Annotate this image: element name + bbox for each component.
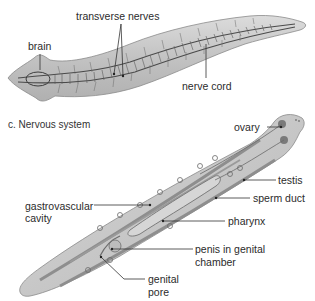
label-penis-line2: chamber [195, 256, 236, 268]
label-transverse-nerves: transverse nerves [76, 10, 159, 22]
label-genital-pore-line2: pore [148, 286, 169, 298]
label-gastrovascular-cavity-line2: cavity [25, 212, 52, 224]
label-testis: testis [278, 174, 303, 186]
nervous-system-worm [8, 15, 306, 101]
label-gastrovascular-cavity-line1: gastrovascular [25, 200, 93, 212]
panel-caption-nervous-system: c. Nervous system [8, 119, 90, 130]
label-genital-pore-line1: genital [148, 273, 179, 285]
label-pharynx: pharynx [228, 215, 265, 227]
label-sperm-duct: sperm duct [253, 192, 305, 204]
label-nerve-cord: nerve cord [182, 80, 232, 92]
label-ovary: ovary [234, 121, 260, 133]
label-brain: brain [28, 40, 51, 52]
label-penis-line1: penis in genital [195, 243, 265, 255]
